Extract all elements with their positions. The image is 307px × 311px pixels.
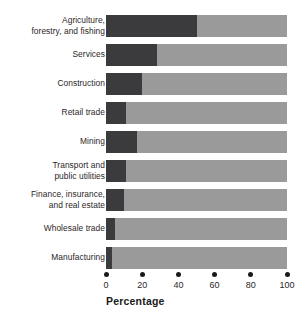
category-label-manufacturing: Manufacturing [1,243,105,272]
x-tick-label: 80 [235,280,267,290]
table-row: Retail trade [0,98,307,127]
bar-segment-dark [106,102,126,124]
tick-dot-icon [140,272,145,277]
bar-segment-dark [106,160,126,182]
category-label-wholesale-trade: Wholesale trade [1,214,105,243]
category-label-retail-trade: Retail trade [1,98,105,127]
category-label-mining: Mining [1,127,105,156]
table-row: Wholesale trade [0,214,307,243]
x-axis: 0 20 40 60 80 100 Percentage [0,272,307,311]
x-tick-label: 100 [271,280,303,290]
table-row: Construction [0,69,307,98]
category-label-agriculture: Agriculture, forestry, and fishing [1,11,105,40]
table-row: Agriculture, forestry, and fishing [0,11,307,40]
bar-construction [106,73,287,95]
bar-wholesale-trade [106,218,287,240]
bar-segment-dark [106,189,124,211]
bar-transport [106,160,287,182]
bar-manufacturing [106,247,287,269]
table-row: Transport and public utilities [0,156,307,185]
bar-segment-dark [106,247,112,269]
bar-agriculture [106,15,287,37]
table-row: Services [0,40,307,69]
table-row: Mining [0,127,307,156]
bar-segment-dark [106,44,157,66]
x-tick-label: 40 [162,280,194,290]
bar-mining [106,131,287,153]
tick-dot-icon [104,272,109,277]
bar-segment-dark [106,73,142,95]
category-label-transport: Transport and public utilities [1,156,105,185]
bar-segment-dark [106,15,197,37]
category-label-services: Services [1,40,105,69]
table-row: Manufacturing [0,243,307,272]
bar-segment-dark [106,218,115,240]
category-label-finance: Finance, insurance, and real estate [1,185,105,214]
bar-services [106,44,287,66]
bar-segment-dark [106,131,137,153]
tick-dot-icon [176,272,181,277]
bar-rows: Agriculture, forestry, and fishing Servi… [0,11,307,272]
category-label-construction: Construction [1,69,105,98]
x-tick-label: 20 [126,280,158,290]
x-axis-title: Percentage [106,295,165,307]
percentage-bar-chart: Agriculture, forestry, and fishing Servi… [0,0,307,311]
tick-dot-icon [285,272,290,277]
table-row: Finance, insurance, and real estate [0,185,307,214]
bar-retail-trade [106,102,287,124]
bar-finance [106,189,287,211]
x-tick-label: 60 [199,280,231,290]
tick-dot-icon [212,272,217,277]
tick-dot-icon [248,272,253,277]
x-tick-label: 0 [90,280,122,290]
